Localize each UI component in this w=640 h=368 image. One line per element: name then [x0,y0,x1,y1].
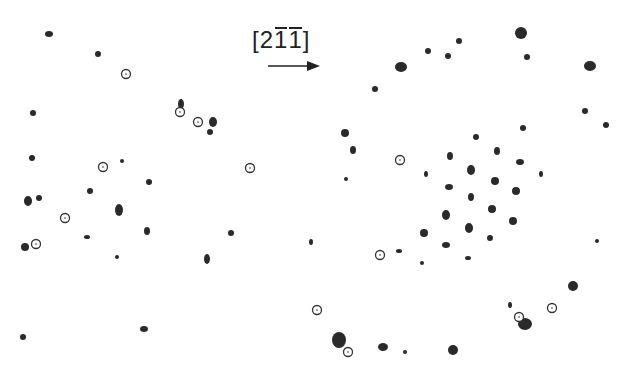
diffraction-spot [207,129,213,135]
diffraction-spot [520,125,526,131]
diffraction-spot [582,108,588,114]
diffraction-spot [442,210,450,220]
diffraction-spot [516,159,524,165]
diffraction-spot [396,249,402,253]
diffraction-spot [344,177,348,181]
diffraction-spot [30,110,36,116]
diffraction-spot [403,350,407,354]
diffraction-spot [524,54,530,60]
index-l-overbar: 1 [288,26,302,54]
circle-center-dot [551,307,553,309]
diffraction-spot [494,147,500,155]
index-h: 2 [260,26,274,53]
diffraction-spot [445,184,453,190]
diffraction-spot [45,31,53,37]
diffraction-spot [488,205,496,213]
diffraction-spot [487,235,493,241]
diffraction-spot [584,61,596,71]
diffraction-spot [204,254,210,264]
diffraction-spot [20,334,26,340]
diffraction-spot [372,86,378,92]
diffraction-spot [144,227,150,235]
diffraction-spot [29,155,35,161]
circle-center-dot [125,73,127,75]
diffraction-spot [209,117,217,127]
diffraction-spot [603,122,609,128]
diffraction-spot [424,171,428,177]
circle-center-dot [102,166,104,168]
diffraction-spot [395,62,407,72]
circle-center-dot [399,159,401,161]
diffraction-spot [24,196,32,206]
diffraction-spot [146,179,152,185]
diffraction-figure [0,0,640,368]
diffraction-spot [228,230,234,236]
diffraction-spot [84,235,90,239]
diffraction-spot [491,177,499,185]
diffraction-spot [473,134,479,140]
diffraction-spot [425,48,431,54]
diffraction-spot [447,152,453,160]
circle-center-dot [197,121,199,123]
diffraction-spot [509,217,517,225]
circle-center-dot [35,243,37,245]
circle-center-dot [64,217,66,219]
circle-center-dot [347,351,349,353]
circle-center-dot [179,111,181,113]
diffraction-spot [445,53,451,59]
diffraction-spot [120,159,124,163]
diffraction-spot [115,204,123,216]
diffraction-spot [420,261,424,265]
diffraction-spot [465,256,471,260]
circle-center-dot [379,254,381,256]
diffraction-spot [468,193,474,201]
diffraction-spot [341,129,349,137]
bracket-close: ] [303,26,311,53]
diffraction-spot [332,332,346,348]
bracket-open: [ [252,26,260,53]
direction-label: [211] [252,26,310,54]
diffraction-spot [21,243,29,251]
diffraction-spot [87,188,93,194]
index-k-overbar: 1 [274,26,288,54]
diffraction-spot [36,195,42,201]
diffraction-spot [512,187,520,195]
diffraction-spot [539,171,543,177]
circle-center-dot [316,309,318,311]
diffraction-spot [456,38,462,44]
diffraction-spot [515,27,527,39]
diffraction-spot [568,281,578,291]
diffraction-spot [309,239,313,245]
diffraction-spot [442,242,450,248]
diffraction-spot [508,302,512,308]
diffraction-spot [115,255,119,259]
circle-center-dot [518,316,520,318]
diffraction-spot [595,239,599,243]
diffraction-spot [467,165,475,175]
diffraction-spot [378,343,388,351]
diffraction-spot [465,223,473,233]
diffraction-spot [420,229,428,237]
diffraction-spot [95,51,101,57]
diffraction-spot [448,345,458,355]
diffraction-spot [350,146,356,154]
diffraction-spot [140,326,148,332]
circle-center-dot [249,167,251,169]
